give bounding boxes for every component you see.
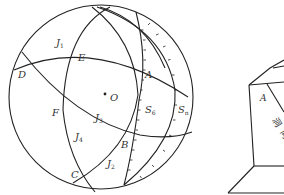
label-o: O <box>110 92 118 103</box>
great-circle-j3 <box>22 52 192 137</box>
block-label-a: A <box>259 93 267 103</box>
label-c: C <box>71 169 79 180</box>
label-j3: J3 <box>93 112 103 124</box>
stereonet-figure: O D E A F B C J1 J3 J4 J2 S6 Sn A 洞 向 <box>0 0 284 195</box>
great-circle-s6 <box>124 12 143 185</box>
great-circle-j4 <box>63 7 110 192</box>
label-b: B <box>120 139 128 150</box>
great-circle-extra <box>100 7 165 68</box>
label-j1: J1 <box>54 37 64 49</box>
primitive-circle <box>9 5 193 189</box>
label-j4: J4 <box>73 131 83 143</box>
label-j2: J2 <box>105 158 115 170</box>
block-partial-text: 洞 <box>270 116 283 129</box>
sn-ticks <box>140 23 177 178</box>
center-point-o <box>104 93 107 96</box>
great-circle-j1 <box>14 57 188 97</box>
block-partial-text-2: 向 <box>278 128 284 141</box>
label-f: F <box>51 107 60 118</box>
label-d: D <box>17 69 26 80</box>
label-e: E <box>77 52 86 63</box>
label-sn: Sn <box>178 104 189 116</box>
label-s6: S6 <box>145 104 156 116</box>
label-a: A <box>144 69 152 80</box>
